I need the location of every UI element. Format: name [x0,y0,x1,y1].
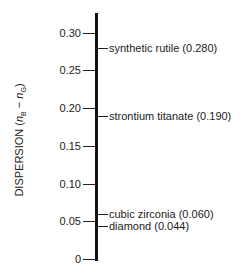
y-tick-mark [83,108,96,109]
data-marker-label: synthetic rutile (0.280) [109,42,217,54]
data-marker-label: cubic zirconia (0.060) [109,208,214,220]
data-marker-label: diamond (0.044) [109,220,189,232]
y-tick-mark [83,146,96,147]
y-tick-mark [83,184,96,185]
y-tick-label: 0.10 [41,178,81,190]
y-tick-mark [83,259,96,260]
data-marker-line [98,214,108,215]
ylabel-prefix: DISPERSION ( [13,122,25,197]
y-tick-label: 0.30 [41,27,81,39]
ylabel-n1: n [13,116,25,122]
y-tick-label: 0.15 [41,140,81,152]
ylabel-sub2: G [20,87,27,92]
y-tick-label: 0.25 [41,64,81,76]
y-tick-mark [83,70,96,71]
y-tick-label: 0.05 [41,215,81,227]
dispersion-chart: DISPERSION (nB − nG) 0.300.250.200.150.1… [0,0,247,278]
y-axis-label: DISPERSION (nB − nG) [13,83,27,196]
ylabel-n2: n [13,93,25,99]
data-marker-line [98,116,108,117]
y-tick-mark [83,33,96,34]
y-axis-line [95,13,98,261]
y-tick-label: 0.20 [41,102,81,114]
ylabel-suffix: ) [13,83,25,87]
data-marker-line [98,48,108,49]
data-marker-line [98,226,108,227]
data-marker-label: strontium titanate (0.190) [109,110,231,122]
y-tick-label: 0 [41,253,81,265]
ylabel-sub1: B [20,111,27,116]
y-tick-mark [83,221,96,222]
ylabel-minus: − [13,99,25,112]
